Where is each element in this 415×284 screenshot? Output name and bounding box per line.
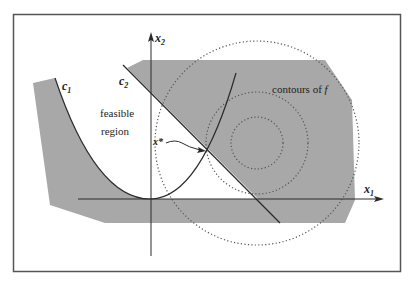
feasible-region-label-line1: feasible [100, 107, 134, 119]
x1-axis-label: x1 [363, 182, 374, 198]
feasible-region-label-line2: region [101, 125, 130, 137]
contours-of-f-label: contours of f [272, 83, 330, 95]
x2-axis-label: x2 [154, 31, 165, 47]
x-star-label: x* [152, 136, 164, 147]
optimization-diagram: x2 x1 c1 c2 feasible region x* contours … [0, 0, 415, 284]
